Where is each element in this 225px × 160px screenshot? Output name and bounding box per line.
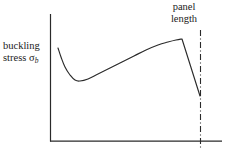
panel-length-label-line2: length <box>158 13 210 25</box>
panel-length-label: panel length <box>158 1 210 26</box>
panel-length-label-line1: panel <box>158 1 210 13</box>
buckling-stress-curve <box>58 39 200 96</box>
y-axis-label: buckling stress σb <box>3 40 49 66</box>
sigma-subscript-b: b <box>35 56 39 65</box>
y-axis-label-stress-word: stress <box>3 52 29 63</box>
buckling-stress-figure: buckling stress σb panel length <box>0 0 225 160</box>
y-axis-label-line2: stress σb <box>3 52 49 66</box>
y-axis-label-line1: buckling <box>3 40 49 52</box>
